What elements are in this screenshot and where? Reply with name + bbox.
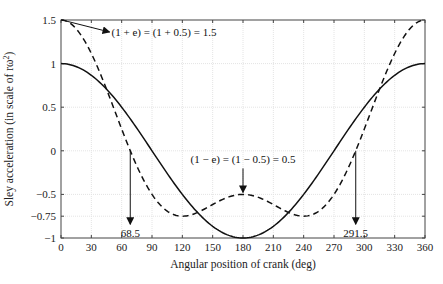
x-tick-label: 0 [58, 241, 64, 253]
annotation-68-5: 68.5 [121, 227, 141, 239]
y-tick-label: −0.5 [36, 188, 56, 200]
y-tick-label: 1.5 [42, 14, 56, 26]
x-tick-label: 60 [116, 241, 128, 253]
y-tick-label: −0.75 [31, 210, 57, 222]
y-axis-label: Sley acceleration (in scale of rω2) [2, 51, 17, 206]
x-tick-label: 360 [417, 241, 434, 253]
x-axis-label: Angular position of crank (deg) [170, 258, 316, 271]
x-tick-label: 90 [147, 241, 159, 253]
y-tick-label: 1 [51, 58, 57, 70]
axis-ticks: 0306090120150180210240270300330360−1−0.7… [31, 14, 434, 253]
x-tick-label: 120 [174, 241, 191, 253]
x-tick-label: 270 [326, 241, 343, 253]
x-tick-label: 300 [356, 241, 373, 253]
annotation-mid: (1 − e) = (1 − 0.5) = 0.5 [191, 153, 296, 166]
y-tick-label: −1 [44, 232, 56, 244]
x-tick-label: 150 [204, 241, 221, 253]
grid-lines [61, 20, 425, 238]
chart: 0306090120150180210240270300330360−1−0.7… [0, 0, 443, 284]
y-tick-label: 0.5 [42, 101, 56, 113]
x-tick-label: 240 [295, 241, 312, 253]
annotation-291-5: 291.5 [343, 227, 368, 239]
x-tick-label: 330 [386, 241, 403, 253]
y-tick-label: 0 [51, 145, 57, 157]
x-tick-label: 180 [235, 241, 252, 253]
x-tick-label: 30 [86, 241, 98, 253]
annotation-max: (1 + e) = (1 + 0.5) = 1.5 [112, 26, 217, 39]
x-tick-label: 210 [265, 241, 282, 253]
annotations: (1 + e) = (1 + 0.5) = 1.5(1 − e) = (1 − … [62, 20, 369, 239]
